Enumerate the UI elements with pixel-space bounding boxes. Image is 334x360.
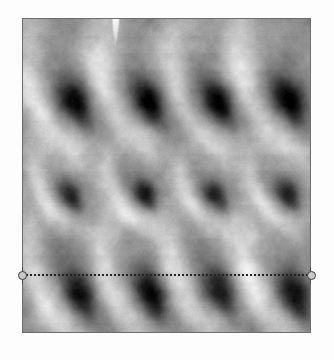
right-handle-label: Right endpoint handle	[0, 0, 1, 1]
scan-area-label: Scan area	[0, 0, 1, 1]
afm-scan-image[interactable]	[23, 19, 310, 332]
image-viewport: Scan area Cross-section line Left endpoi…	[0, 0, 334, 360]
profile-line-label: Cross-section line	[0, 0, 1, 1]
scan-image-frame[interactable]	[22, 18, 311, 333]
left-handle-label: Left endpoint handle	[0, 0, 1, 1]
